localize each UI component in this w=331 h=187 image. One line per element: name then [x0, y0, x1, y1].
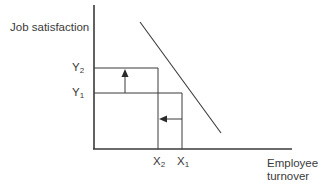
- x-axis-label-line2: turnover: [267, 170, 318, 183]
- x-axis-label-line1: Employee: [267, 157, 318, 170]
- x1-tick-label: X1: [177, 155, 189, 169]
- x-axis-label: Employee turnover: [267, 157, 318, 183]
- x2-tick-label: X2: [153, 155, 165, 169]
- left-arrow-icon: [159, 116, 182, 123]
- y2-tick-label: Y2: [72, 61, 84, 75]
- relationship-line: [140, 22, 221, 133]
- up-arrow-icon: [122, 69, 129, 93]
- y1-tick-label: Y1: [72, 86, 84, 100]
- y-axis-label: Job satisfaction: [10, 21, 89, 34]
